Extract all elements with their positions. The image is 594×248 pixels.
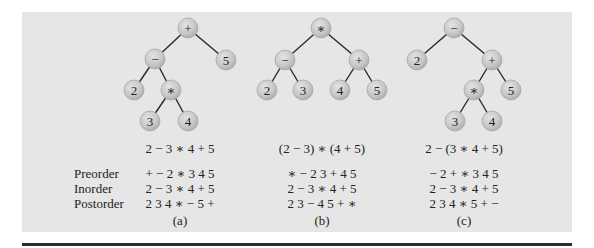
- tree-nodes: +−52∗34∗−+2345−2+∗534: [124, 18, 521, 131]
- tree-node-a: 2: [124, 80, 144, 100]
- expression-b: (2 − 3) ∗ (4 + 5): [279, 141, 365, 156]
- postorder-b: 2 3 − 4 5 + ∗: [288, 196, 357, 211]
- tree-node-c: 5: [501, 80, 521, 100]
- tree-node-a: −: [145, 49, 165, 69]
- postorder-c: 2 3 4 ∗ 5 + −: [430, 196, 499, 211]
- svg-text:∗: ∗: [317, 21, 326, 36]
- preorder-b: ∗ − 2 3 + 4 5: [288, 166, 357, 181]
- svg-text:4: 4: [337, 83, 344, 98]
- svg-text:3: 3: [147, 114, 154, 129]
- bottom-rule: [22, 243, 572, 246]
- preorder-a: + − 2 ∗ 3 4 5: [146, 166, 215, 181]
- svg-text:+: +: [355, 53, 362, 68]
- tree-node-c: −: [444, 18, 464, 38]
- tree-node-a: 4: [178, 111, 198, 131]
- tree-node-a: ∗: [161, 80, 181, 100]
- svg-text:3: 3: [300, 83, 307, 98]
- svg-text:−: −: [281, 53, 288, 68]
- row-label-postorder: Postorder: [74, 196, 124, 211]
- tree-node-b: +: [349, 50, 369, 70]
- tree-node-c: +: [482, 50, 502, 70]
- inorder-c: 2 − 3 ∗ 4 + 5: [430, 181, 499, 196]
- caption-b: (b): [314, 213, 329, 228]
- postorder-a: 2 3 4 ∗ − 5 +: [146, 196, 215, 211]
- tree-node-b: ∗: [311, 18, 331, 38]
- tree-edges: [134, 28, 511, 121]
- tree-node-b: 2: [257, 80, 277, 100]
- svg-text:+: +: [488, 53, 495, 68]
- svg-text:2: 2: [131, 83, 138, 98]
- svg-text:−: −: [151, 52, 158, 67]
- svg-text:3: 3: [452, 114, 459, 129]
- svg-text:5: 5: [374, 83, 381, 98]
- tree-node-c: 4: [482, 111, 502, 131]
- tree-node-b: 5: [367, 80, 387, 100]
- tree-node-c: 3: [445, 111, 465, 131]
- svg-text:5: 5: [223, 53, 230, 68]
- svg-text:∗: ∗: [167, 83, 176, 98]
- tree-node-a: 5: [216, 50, 236, 70]
- svg-text:2: 2: [264, 83, 271, 98]
- svg-text:5: 5: [508, 83, 515, 98]
- svg-text:+: +: [184, 21, 191, 36]
- tree-node-a: +: [178, 18, 198, 38]
- inorder-b: 2 − 3 ∗ 4 + 5: [288, 181, 357, 196]
- expression-c: 2 − (3 ∗ 4 + 5): [425, 141, 503, 156]
- tree-node-b: 4: [330, 80, 350, 100]
- expression-a: 2 − 3 ∗ 4 + 5: [146, 141, 215, 156]
- row-label-inorder: Inorder: [74, 181, 112, 196]
- tree-node-b: −: [275, 50, 295, 70]
- svg-text:−: −: [450, 21, 457, 36]
- caption-a: (a): [173, 213, 187, 228]
- row-label-preorder: Preorder: [74, 166, 119, 181]
- preorder-c: − 2 + ∗ 3 4 5: [430, 166, 499, 181]
- tree-node-c: 2: [407, 50, 427, 70]
- tree-node-a: 3: [140, 111, 160, 131]
- tree-node-b: 3: [293, 80, 313, 100]
- tree-node-c: ∗: [464, 80, 484, 100]
- svg-text:4: 4: [489, 114, 496, 129]
- svg-text:2: 2: [414, 53, 421, 68]
- svg-text:∗: ∗: [470, 83, 479, 98]
- inorder-a: 2 − 3 ∗ 4 + 5: [146, 181, 215, 196]
- caption-c: (c): [457, 213, 471, 228]
- svg-text:4: 4: [185, 114, 192, 129]
